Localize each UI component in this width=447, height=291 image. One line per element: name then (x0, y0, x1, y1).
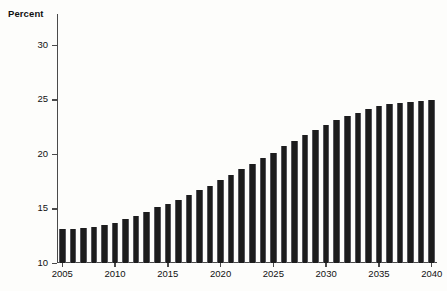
bar (70, 229, 77, 263)
bar (418, 101, 425, 263)
bar (333, 120, 340, 263)
bar (228, 175, 235, 263)
bar (133, 216, 140, 263)
bar (355, 113, 362, 263)
bar (122, 219, 129, 263)
bar (386, 104, 393, 263)
bar (428, 100, 435, 264)
bar (217, 180, 224, 263)
bar (91, 227, 98, 263)
bar (302, 135, 309, 263)
bar (196, 190, 203, 263)
bar (291, 141, 298, 263)
bar (249, 164, 256, 263)
bar (397, 103, 404, 263)
bar (101, 225, 108, 263)
chart-figure: Percent 1015202530 200520102015202020252… (0, 0, 447, 291)
bar (154, 207, 161, 263)
bar (365, 109, 372, 263)
bar (59, 229, 66, 263)
bar (281, 146, 288, 263)
bar (323, 125, 330, 263)
bar (175, 200, 182, 263)
bar (143, 212, 150, 263)
bars-layer (0, 0, 447, 291)
bar (112, 223, 119, 263)
bar (80, 228, 87, 263)
bar (186, 195, 193, 263)
bar (260, 158, 267, 263)
bar (238, 169, 245, 263)
bar (312, 130, 319, 263)
bar (407, 102, 414, 263)
bar (270, 153, 277, 263)
bar (376, 106, 383, 263)
bar (344, 116, 351, 263)
bar (165, 204, 172, 263)
bar (207, 186, 214, 263)
